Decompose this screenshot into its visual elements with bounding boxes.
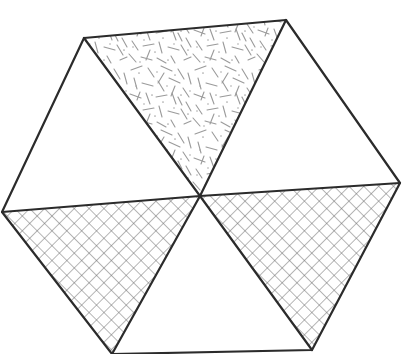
- figure-canvas: [0, 0, 407, 354]
- hexagon-figure: [0, 0, 407, 354]
